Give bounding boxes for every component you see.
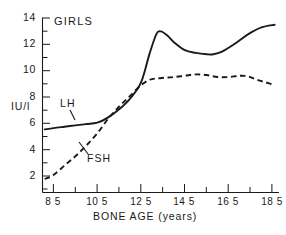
y-tick-label-12: 12 — [20, 37, 36, 49]
series-label-fsh: FSH — [87, 152, 111, 164]
series-line-lh — [45, 25, 275, 130]
y-tick-label-4: 4 — [20, 143, 36, 155]
chart-container: 14 12 10 8 6 4 2 8 5 10 5 12 5 14 5 16 5… — [0, 0, 286, 235]
y-tick-label-2: 2 — [20, 169, 36, 181]
x-tick-label-12-5: 12 5 — [124, 196, 158, 207]
x-tick-label-10-5: 10 5 — [80, 196, 114, 207]
y-axis-major-ticks — [43, 18, 51, 176]
y-tick-label-6: 6 — [20, 116, 36, 128]
y-tick-label-10: 10 — [20, 63, 36, 75]
y-axis-title: IU/l — [11, 100, 30, 112]
panel-label-girls: GIRLS — [54, 15, 93, 27]
x-tick-label-8-5: 8 5 — [36, 196, 70, 207]
x-tick-label-16-5: 16 5 — [211, 196, 245, 207]
x-tick-label-14-5: 14 5 — [167, 196, 201, 207]
series-label-lh: LH — [60, 97, 76, 109]
y-axis-minor-ticks — [43, 31, 48, 189]
x-tick-label-18-5: 18 5 — [255, 196, 286, 207]
series-line-fsh — [45, 74, 275, 179]
x-axis-title: BONE AGE (years) — [93, 210, 197, 222]
y-tick-label-14: 14 — [20, 11, 36, 23]
lh-leader-line — [70, 110, 75, 120]
x-axis-minor-ticks — [75, 187, 250, 193]
